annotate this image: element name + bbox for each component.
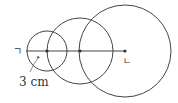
- radius-label: 3 cm: [19, 75, 49, 89]
- center-point-middle: [78, 49, 81, 52]
- center-point-small: [45, 49, 48, 52]
- end-point-label: ㄴ: [123, 56, 131, 66]
- diagram-canvas: ㄱ ㄴ 3 cm: [0, 0, 178, 103]
- center-point-large: [123, 49, 126, 52]
- radius-pointer-line: [30, 57, 39, 72]
- radius-arrow-icon: [37, 56, 40, 59]
- start-point-label: ㄱ: [13, 46, 22, 57]
